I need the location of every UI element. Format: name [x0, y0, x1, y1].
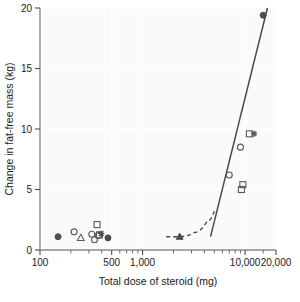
x-tick-label: 20,000 — [261, 257, 292, 268]
marker-plus — [251, 131, 257, 137]
chart-figure: 1005001,00010,00020,000 05101520 Total d… — [0, 0, 300, 302]
x-axis-tick-labels: 1005001,00010,00020,000 — [32, 257, 292, 268]
y-tick-label: 0 — [26, 245, 32, 256]
marker-plus — [98, 230, 104, 236]
marker-filled-circle — [55, 234, 61, 240]
y-tick-label: 20 — [21, 3, 33, 14]
marker-filled-circle — [260, 12, 266, 18]
x-axis-ticks — [40, 250, 276, 255]
x-tick-label: 1,000 — [130, 257, 155, 268]
y-axis-ticks — [35, 8, 40, 250]
scatter-chart: 1005001,00010,00020,000 05101520 Total d… — [0, 0, 300, 302]
y-axis-tick-labels: 05101520 — [21, 3, 33, 256]
y-axis-label: Change in fat-free mass (kg) — [3, 62, 15, 195]
x-tick-label: 10,000 — [230, 257, 261, 268]
x-axis-label: Total dose of steroid (mg) — [99, 275, 217, 287]
marker-filled-circle — [105, 235, 111, 241]
x-tick-label: 100 — [32, 257, 49, 268]
x-tick-label: 500 — [103, 257, 120, 268]
y-tick-label: 10 — [21, 124, 33, 135]
y-tick-label: 5 — [26, 184, 32, 195]
y-tick-label: 15 — [21, 63, 33, 74]
